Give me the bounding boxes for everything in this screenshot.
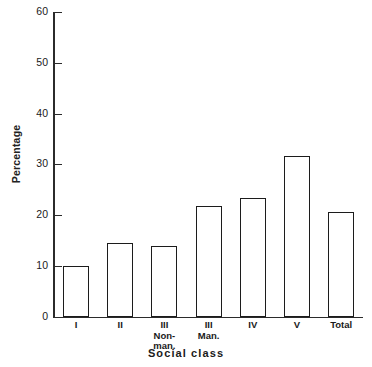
y-tick-label: 60 xyxy=(36,5,48,18)
y-tick-0: 0 xyxy=(53,317,62,318)
y-tick-60: 60 xyxy=(53,12,62,13)
bar-total xyxy=(328,212,354,317)
y-tick-mark xyxy=(55,164,62,165)
y-tick-mark xyxy=(55,114,62,115)
y-tick-label: 20 xyxy=(36,208,48,221)
y-tick-mark xyxy=(55,12,62,13)
bar-chart: Percentage 0102030405060 IIIIIINon-man.I… xyxy=(0,0,372,367)
x-label-line: Total xyxy=(311,320,371,331)
y-tick-label: 30 xyxy=(36,157,48,170)
bar-ii xyxy=(107,243,133,317)
x-axis-title: Social class xyxy=(0,347,372,359)
bar-v xyxy=(284,156,310,316)
bar-iv xyxy=(240,198,266,316)
y-tick-20: 20 xyxy=(53,215,62,216)
bar-i xyxy=(63,266,89,317)
x-axis-line xyxy=(53,317,363,319)
y-tick-mark xyxy=(55,266,62,267)
y-tick-label: 40 xyxy=(36,107,48,120)
y-tick-label: 50 xyxy=(36,56,48,69)
x-label-line: Man. xyxy=(179,331,239,342)
y-tick-40: 40 xyxy=(53,114,62,115)
y-tick-30: 30 xyxy=(53,164,62,165)
plot-area: 0102030405060 xyxy=(53,12,363,318)
y-tick-50: 50 xyxy=(53,63,62,64)
y-tick-mark xyxy=(55,215,62,216)
bar-iii-man- xyxy=(196,206,222,317)
y-tick-10: 10 xyxy=(53,266,62,267)
y-tick-mark xyxy=(55,63,62,64)
y-tick-mark xyxy=(55,317,62,318)
x-label-total: Total xyxy=(311,320,371,331)
bar-iii-non-man- xyxy=(151,246,177,316)
y-tick-label: 10 xyxy=(36,259,48,272)
y-axis-title: Percentage xyxy=(10,102,22,206)
